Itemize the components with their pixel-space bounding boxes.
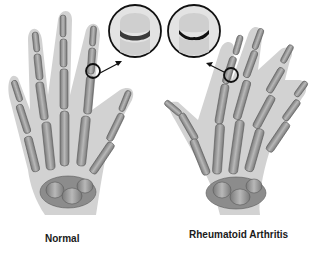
normal-hand [8,5,161,215]
hand-comparison-illustration [0,0,317,259]
rheumatoid-arthritis-label: Rheumatoid Arthritis [189,229,288,240]
normal-label: Normal [45,233,79,244]
ra-hand [163,5,308,215]
normal-inset [109,5,161,57]
ra-inset [168,5,220,57]
normal-arrow-head [115,61,122,66]
normal-arrow-line [100,63,119,73]
